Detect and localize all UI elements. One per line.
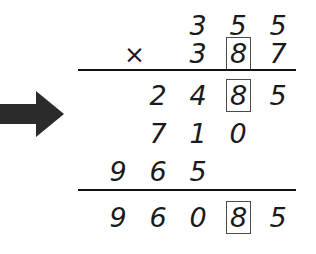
digit-cell: 7 (258, 34, 298, 72)
digit-cell-highlighted: 8 (218, 198, 258, 236)
multiplier-row: 3 8 7 (178, 34, 298, 72)
digit-boxed: 8 (226, 201, 251, 234)
sum-rule (78, 189, 296, 191)
multiplication-operator: × (124, 42, 145, 67)
digit-cell: 4 (178, 76, 218, 114)
digit-cell: 7 (138, 114, 178, 152)
digit-cell: 9 (98, 152, 138, 190)
answer-row: 9 6 0 8 5 (98, 198, 298, 236)
long-multiplication-problem: 3 5 5 3 8 7 × 2 (0, 0, 316, 254)
digit-cell: 6 (138, 152, 178, 190)
partial-product-row-2: 7 1 0 (138, 114, 258, 152)
digit: 4 (178, 76, 218, 114)
digit: 5 (258, 198, 298, 236)
digit-cell: 5 (258, 76, 298, 114)
digit-cell: 2 (138, 76, 178, 114)
digit-cell: 0 (178, 198, 218, 236)
digit: 3 (178, 34, 218, 72)
digit: 5 (178, 152, 218, 190)
digit-cell: 0 (218, 114, 258, 152)
digit: 2 (138, 76, 178, 114)
partial-product-row-3: 9 6 5 (98, 152, 218, 190)
digit: 1 (178, 114, 218, 152)
digit-cell: 5 (258, 198, 298, 236)
multiplier-rule (78, 69, 296, 71)
digit-cell: 6 (138, 198, 178, 236)
digit-cell: 9 (98, 198, 138, 236)
digit: 7 (258, 34, 298, 72)
digit: 9 (98, 198, 138, 236)
digit-cell-highlighted: 8 (218, 76, 258, 114)
digit: 6 (138, 152, 178, 190)
digit-cell-highlighted: 8 (218, 34, 258, 72)
digit: 0 (178, 198, 218, 236)
partial-product-row-1: 2 4 8 5 (138, 76, 298, 114)
digit-boxed: 8 (226, 79, 251, 112)
digit-boxed: 8 (226, 37, 251, 70)
digit: 7 (138, 114, 178, 152)
digit: 0 (218, 114, 258, 152)
digit: 6 (138, 198, 178, 236)
digit: 5 (258, 76, 298, 114)
digit-cell: 1 (178, 114, 218, 152)
digit-cell: 5 (178, 152, 218, 190)
worksheet-canvas: 3 5 5 3 8 7 × 2 (0, 0, 316, 254)
digit: 9 (98, 152, 138, 190)
digit-cell: 3 (178, 34, 218, 72)
